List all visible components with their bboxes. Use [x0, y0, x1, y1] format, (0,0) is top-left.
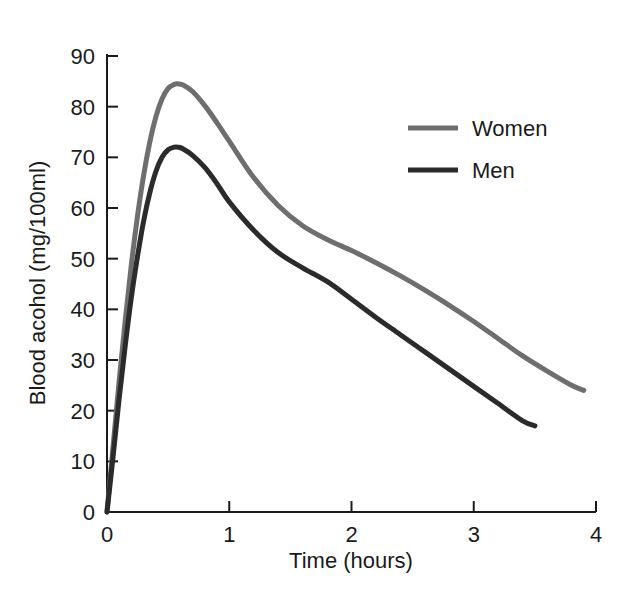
series-line-men — [107, 147, 535, 512]
y-tick-label: 10 — [71, 449, 95, 474]
y-tick-label: 70 — [71, 145, 95, 170]
x-axis-ticks — [107, 501, 596, 512]
y-axis-tick-labels: 0102030405060708090 — [71, 44, 95, 525]
x-tick-label: 4 — [590, 522, 602, 547]
chart-figure: 0102030405060708090 01234 WomenMen Time … — [0, 0, 629, 594]
blood-alcohol-line-chart: 0102030405060708090 01234 WomenMen Time … — [0, 0, 629, 594]
legend-label-men: Men — [472, 158, 515, 183]
y-tick-label: 40 — [71, 297, 95, 322]
y-axis-title: Blood acohol (mg/100ml) — [25, 161, 50, 406]
y-tick-label: 80 — [71, 95, 95, 120]
x-tick-label: 3 — [468, 522, 480, 547]
x-axis-tick-labels: 01234 — [101, 522, 602, 547]
x-tick-label: 0 — [101, 522, 113, 547]
y-tick-label: 50 — [71, 247, 95, 272]
y-tick-label: 0 — [83, 500, 95, 525]
x-axis-title: Time (hours) — [289, 548, 413, 573]
chart-legend: WomenMen — [408, 116, 547, 183]
data-series-group — [107, 84, 584, 512]
x-tick-label: 1 — [223, 522, 235, 547]
x-tick-label: 2 — [345, 522, 357, 547]
y-tick-label: 20 — [71, 399, 95, 424]
y-tick-label: 30 — [71, 348, 95, 373]
y-tick-label: 60 — [71, 196, 95, 221]
legend-label-women: Women — [472, 116, 547, 141]
y-tick-label: 90 — [71, 44, 95, 69]
